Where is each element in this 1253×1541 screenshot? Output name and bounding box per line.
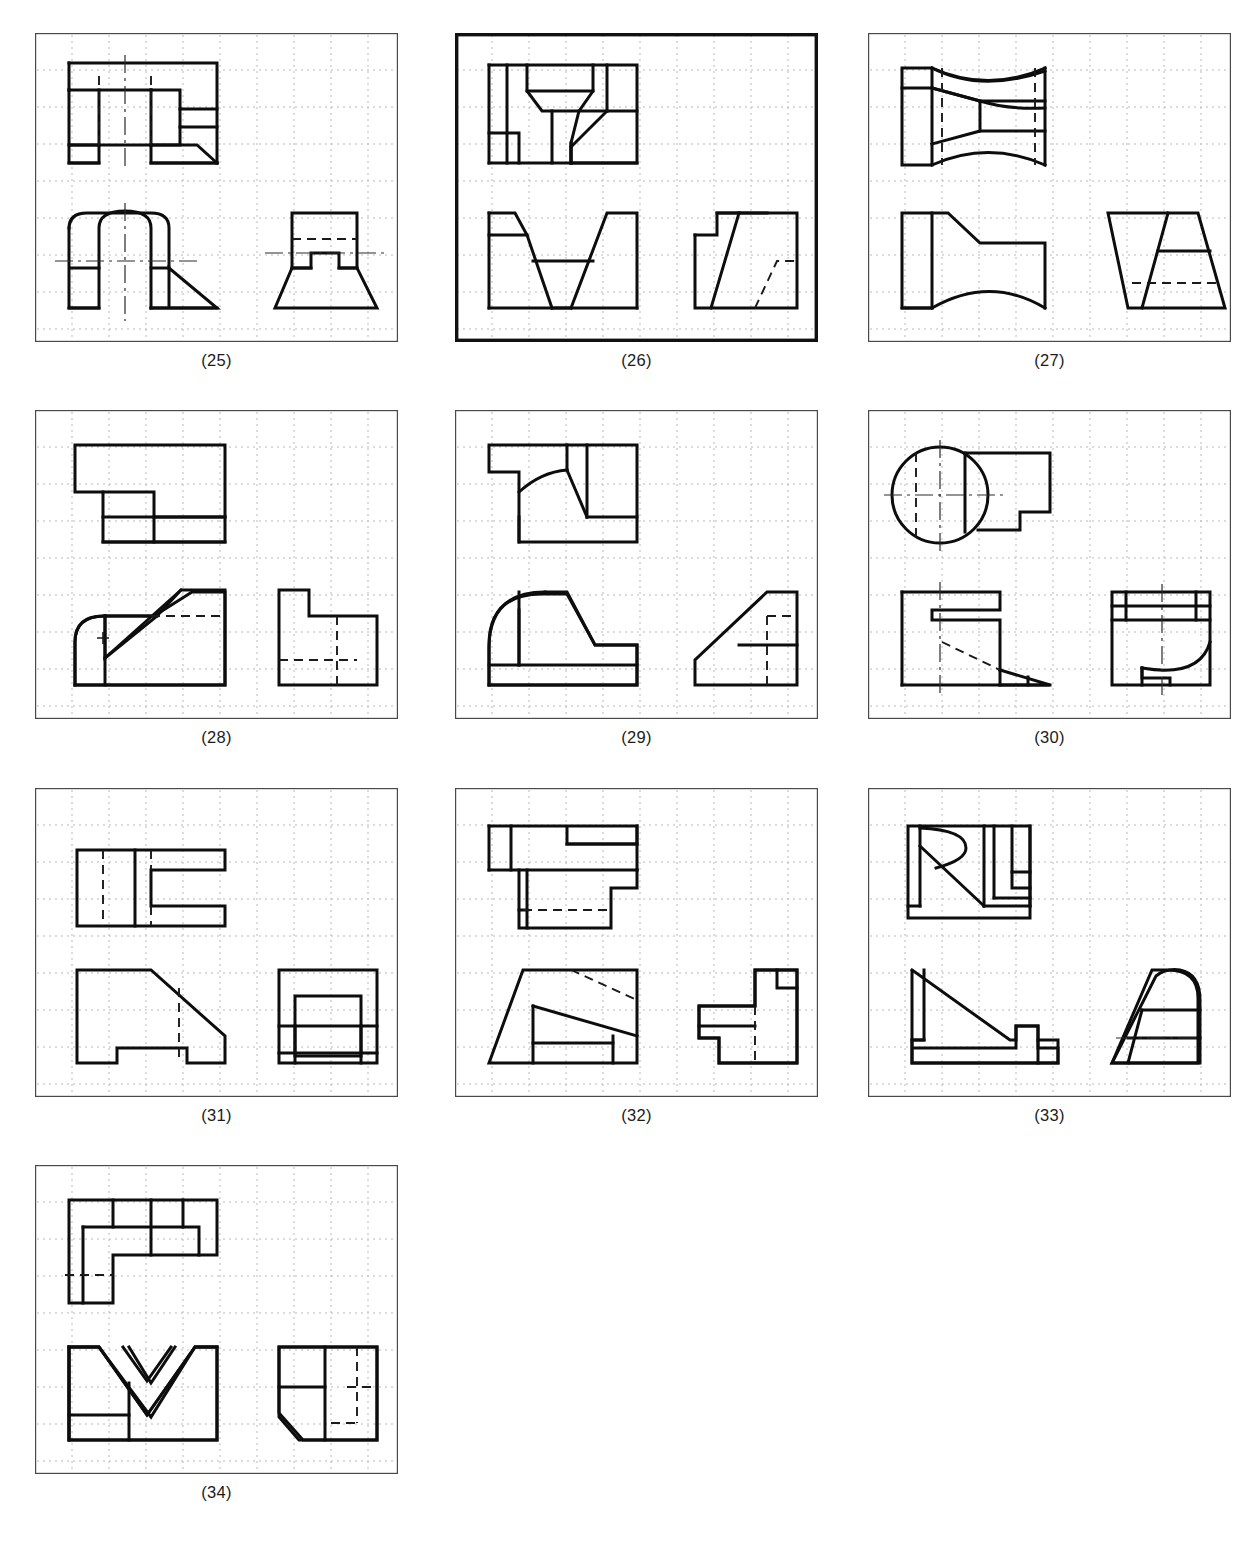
exercise-panel-p31: (31) (35, 788, 398, 1137)
panel-caption-p29: (29) (455, 728, 818, 747)
panel-caption-p25: (25) (35, 351, 398, 370)
orthographic-drawing-p34 (35, 1165, 398, 1474)
panel-frame-p33 (869, 789, 1231, 1097)
exercise-panel-p28: (28) (35, 410, 398, 759)
panel-caption-p32: (32) (455, 1106, 818, 1125)
panel-caption-p30: (30) (868, 728, 1231, 747)
panel-caption-p27: (27) (868, 351, 1231, 370)
exercise-panel-p29: (29) (455, 410, 818, 759)
orthographic-drawing-p33 (868, 788, 1231, 1097)
panel-caption-p26: (26) (455, 351, 818, 370)
exercise-panel-p25: (25) (35, 33, 398, 382)
exercise-panel-p34: (34) (35, 1165, 398, 1514)
exercise-sheet: (25)(26)(27)(28)(29)(30)(31)(32)(33)(34) (0, 0, 1253, 1541)
orthographic-drawing-p26 (455, 33, 818, 342)
orthographic-drawing-p29 (455, 410, 818, 719)
orthographic-drawing-p30 (868, 410, 1231, 719)
exercise-panel-p33: (33) (868, 788, 1231, 1137)
exercise-panel-p26: (26) (455, 33, 818, 382)
exercise-panel-p30: (30) (868, 410, 1231, 759)
orthographic-drawing-p31 (35, 788, 398, 1097)
orthographic-drawing-p28 (35, 410, 398, 719)
orthographic-drawing-p32 (455, 788, 818, 1097)
orthographic-drawing-p25 (35, 33, 398, 342)
panel-frame-p28 (36, 411, 398, 719)
panel-caption-p28: (28) (35, 728, 398, 747)
exercise-panel-p27: (27) (868, 33, 1231, 382)
panel-caption-p31: (31) (35, 1106, 398, 1125)
panel-frame-p31 (36, 789, 398, 1097)
panel-frame-p27 (869, 34, 1231, 342)
exercise-panel-p32: (32) (455, 788, 818, 1137)
panel-caption-p34: (34) (35, 1483, 398, 1502)
orthographic-drawing-p27 (868, 33, 1231, 342)
panel-caption-p33: (33) (868, 1106, 1231, 1125)
